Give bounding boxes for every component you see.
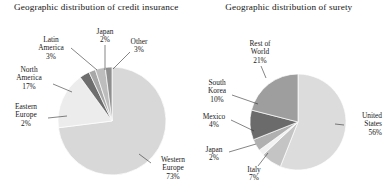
slice-label-united-states: United States 56%: [340, 112, 382, 137]
slice-label-rest-of-world: Rest of World 21%: [238, 40, 282, 65]
slice-label-japan-right: Japan 2%: [198, 146, 230, 163]
slice-label-eastern-europe: Eastern Europe 2%: [4, 103, 48, 128]
slice-label-south-korea: South Korea 10%: [198, 79, 236, 104]
pie-chart-credit-insurance: [58, 67, 166, 175]
slice-label-mexico: Mexico 4%: [195, 113, 233, 130]
slice-label-italy: Italy 7%: [240, 166, 268, 183]
slice-label-western-europe: Western Europe 73%: [152, 156, 194, 181]
slice-label-south-korea-value: 10%: [198, 96, 236, 104]
slice-label-north-america: North America 17%: [6, 66, 52, 91]
slice-label-italy-value: 7%: [240, 174, 268, 182]
pie-chart-surety: [250, 74, 346, 170]
slice-label-japan-left-value: 2%: [88, 36, 122, 44]
slice-label-other: Other 3%: [122, 38, 156, 55]
slice-label-japan-left: Japan 2%: [88, 28, 122, 45]
slice-label-mexico-value: 4%: [195, 121, 233, 129]
figure-two-pie-charts: Geographic distribution of credit insura…: [0, 0, 385, 194]
slice-label-latin-america: Latin America 3%: [30, 36, 72, 61]
slice-label-japan-right-value: 2%: [198, 154, 230, 162]
slice-label-rest-of-world-value: 21%: [238, 57, 282, 65]
slice-label-latin-america-value: 3%: [30, 53, 72, 61]
slice-label-eastern-europe-value: 2%: [4, 120, 48, 128]
slice-label-other-value: 3%: [122, 46, 156, 54]
slice-label-western-europe-value: 73%: [152, 173, 194, 181]
slice-label-united-states-value: 56%: [340, 129, 382, 137]
slice-label-north-america-value: 17%: [6, 83, 52, 91]
